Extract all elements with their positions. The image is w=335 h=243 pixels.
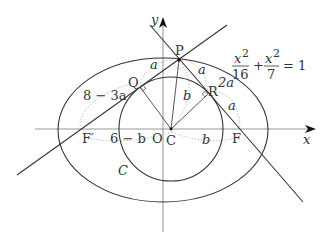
label-f: F [232,131,241,146]
point-p [177,58,181,62]
label-qfprime-8-3a: 8 − 3a [83,88,127,103]
label-q: Q [128,75,139,90]
eq-num1: x [234,51,242,66]
label-pr-a: a [198,62,206,77]
ellipse-circle-diagram: x y P Q R F′ F O C a [0,0,335,243]
label-fprimec-6-b: 6 − b [110,131,146,146]
label-c-point: C [166,133,176,148]
y-axis-label: y [150,12,159,27]
label-o: O [152,131,163,146]
arc-q-p [140,60,176,83]
eq-den1: 16 [232,67,249,82]
label-f-prime: F′ [82,131,94,146]
label-rf-a: a [228,98,236,113]
eq-num2: x [265,51,273,66]
label-curve-c: C [118,163,128,178]
point-c [170,128,173,131]
eq-exp1: 2 [242,47,249,60]
label-pc-b: b [183,88,191,103]
label-pq-a: a [150,57,158,72]
eq-den2: 7 [267,67,275,82]
label-cf-b: b [202,132,210,147]
label-p: P [175,43,184,58]
eq-plus: + [253,58,264,73]
ellipse-equation: x 2 16 + x 2 7 = 1 [232,47,306,82]
x-axis-label: x [303,132,311,147]
eq-rhs: = 1 [283,58,306,73]
segment-cq [140,87,171,129]
segment-cp [171,60,179,129]
eq-exp2: 2 [273,47,280,60]
